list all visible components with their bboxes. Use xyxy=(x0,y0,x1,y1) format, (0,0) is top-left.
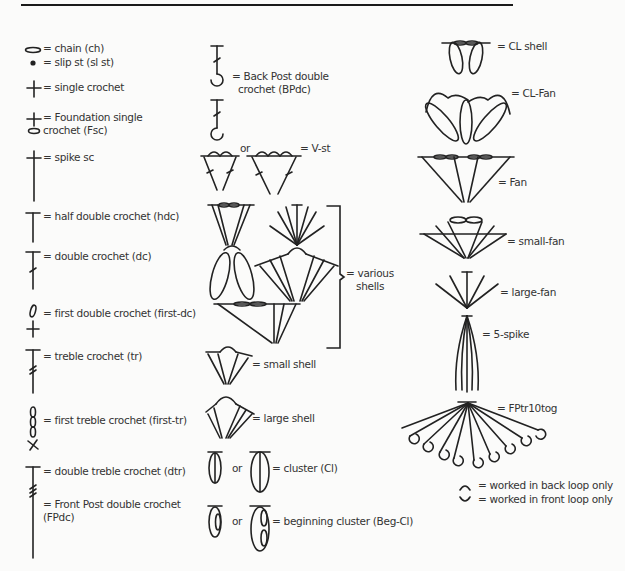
label-large-fan: = large-fan xyxy=(500,286,556,299)
label-cluster: = cluster (Cl) xyxy=(272,462,337,475)
label-bpdc: = Back Post double xyxy=(232,70,329,83)
chain-icon xyxy=(24,46,42,54)
label-foundation-sc-2: crochet (Fsc) xyxy=(43,124,107,137)
spike-sc-icon xyxy=(26,150,42,202)
label-first-tr: = first treble crochet (first-tr) xyxy=(43,414,187,427)
small-shell-icon xyxy=(204,344,254,386)
dtr-icon xyxy=(25,465,41,559)
label-dc: = double crochet (dc) xyxy=(43,250,151,263)
large-fan-icon xyxy=(432,270,502,310)
or-beg-cluster: or xyxy=(232,515,242,528)
hdc-icon xyxy=(25,211,41,243)
foundation-sc-icon xyxy=(26,112,42,136)
shell-5-icon xyxy=(212,300,302,344)
fpdc-hook-icon xyxy=(208,98,228,142)
v-stitch-small-icon xyxy=(200,148,240,192)
label-beg-cluster: = beginning cluster (Beg-Cl) xyxy=(272,515,413,528)
label-fan: = Fan xyxy=(498,176,527,189)
label-single-crochet: = single crochet xyxy=(43,81,124,94)
back-loop-arc-icon xyxy=(458,483,472,491)
first-tr-icon xyxy=(25,406,41,450)
label-small-shell: = small shell xyxy=(252,358,316,371)
header-rule xyxy=(21,4,513,6)
front-loop-arc-icon xyxy=(458,496,472,504)
cl-fan-icon xyxy=(412,82,520,146)
label-tr: = treble crochet (tr) xyxy=(43,350,142,363)
cl-shell-icon xyxy=(440,40,492,76)
label-hdc: = half double crochet (hdc) xyxy=(43,210,179,223)
label-fpdc: = Front Post double crochet xyxy=(43,498,181,511)
cluster-small-icon xyxy=(206,450,224,486)
single-crochet-icon xyxy=(26,80,42,98)
label-front-loop: = worked in front loop only xyxy=(478,493,613,506)
first-dc-icon xyxy=(25,304,41,338)
beg-cluster-large-icon xyxy=(248,504,272,554)
label-slip-st: = slip st (sl st) xyxy=(43,56,114,69)
dc-icon xyxy=(25,250,41,290)
5-spike-icon xyxy=(450,314,484,394)
shell-2-icon xyxy=(262,200,328,246)
label-shells: shells xyxy=(356,280,384,293)
label-fpdc-2: (FPdc) xyxy=(43,511,74,524)
tr-icon xyxy=(25,348,41,394)
small-fan-icon xyxy=(418,212,514,260)
label-bpdc-2: crochet (BPdc) xyxy=(238,83,311,96)
shell-3-icon xyxy=(204,244,260,304)
shell-1-icon xyxy=(204,200,258,246)
label-v-st: = V-st xyxy=(300,142,330,155)
label-5-spike: = 5-spike xyxy=(482,328,529,341)
label-dtr: = double treble crochet (dtr) xyxy=(43,465,186,478)
label-foundation-sc: = Foundation single xyxy=(43,111,142,124)
label-small-fan: = small-fan xyxy=(507,235,564,248)
cluster-large-icon xyxy=(248,450,272,494)
label-fptr10tog: = FPtr10tog xyxy=(497,402,557,415)
label-first-dc: = first double crochet (first-dc) xyxy=(43,307,196,320)
beg-cluster-small-icon xyxy=(206,504,224,540)
label-chain: = chain (ch) xyxy=(43,42,104,55)
large-shell-icon xyxy=(204,392,256,440)
label-spike-sc: = spike sc xyxy=(43,151,94,164)
or-cluster: or xyxy=(232,462,242,475)
label-back-loop: = worked in back loop only xyxy=(478,479,613,492)
label-large-shell: = large shell xyxy=(252,412,315,425)
label-cl-shell: = CL shell xyxy=(497,40,547,53)
bpdc-icon xyxy=(208,44,228,88)
brace-icon xyxy=(326,204,346,350)
label-cl-fan: = CL-Fan xyxy=(511,87,556,100)
label-various: = various xyxy=(346,267,394,280)
v-stitch-large-icon xyxy=(246,148,302,196)
slip-stitch-dot-icon xyxy=(30,60,36,66)
